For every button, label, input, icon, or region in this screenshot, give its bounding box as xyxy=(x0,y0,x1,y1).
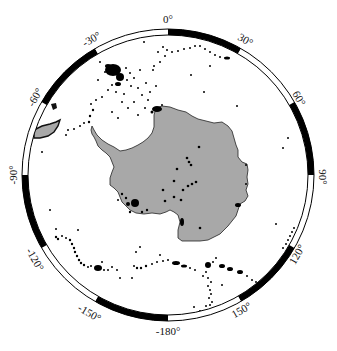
longitude-label: -180° xyxy=(156,325,181,337)
longitude-label: 0° xyxy=(163,13,173,25)
antarctic-polar-map: 0°30°60°90°120°150°-180°-150°-120°-90°-6… xyxy=(0,0,337,351)
longitude-label: -90° xyxy=(7,165,19,184)
longitude-label: 90° xyxy=(317,169,329,184)
